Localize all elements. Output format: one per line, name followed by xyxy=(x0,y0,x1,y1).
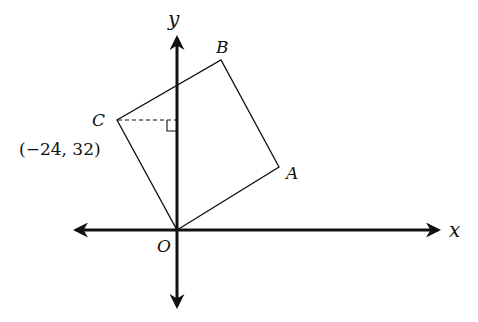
origin-label: O xyxy=(157,236,171,256)
diagram-canvas: y x O A B C (−24, 32) xyxy=(0,0,478,322)
vertex-b-label: B xyxy=(215,37,229,57)
y-axis-label: y xyxy=(167,7,180,31)
vertex-c-label: C xyxy=(92,110,105,130)
x-axis-label: x xyxy=(449,218,460,242)
vertex-a-label: A xyxy=(284,163,298,183)
square-oabc xyxy=(117,60,279,230)
vertex-c-coordinates: (−24, 32) xyxy=(19,139,101,159)
